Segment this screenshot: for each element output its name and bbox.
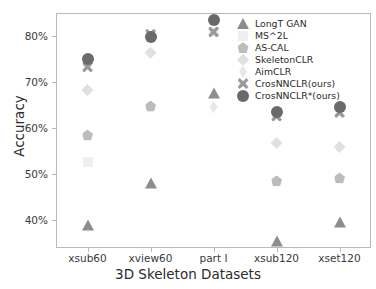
legend-marker-swatch xyxy=(231,42,255,53)
data-point xyxy=(334,216,346,227)
y-axis-tick-mark xyxy=(52,128,56,129)
x-marker xyxy=(238,78,249,89)
x-axis-tick-mark xyxy=(340,248,341,252)
triangle-marker xyxy=(237,18,249,29)
pentagon-marker xyxy=(238,42,249,53)
y-axis-tick-mark xyxy=(52,220,56,221)
square-marker xyxy=(238,31,248,41)
data-point xyxy=(145,31,157,43)
x-axis-tick-label: xset120 xyxy=(318,252,360,264)
y-axis-title: Accuracy xyxy=(11,66,27,186)
legend-item[interactable]: AS-CAL xyxy=(231,42,365,53)
data-point xyxy=(83,157,93,167)
y-axis-tick-label: 80% xyxy=(14,30,48,42)
x-axis-tick-label: part I xyxy=(200,252,228,264)
x-axis-tick-mark xyxy=(277,248,278,252)
scatter-chart-figure: 40%50%60%70%80% xsub60xview60part Ixsub1… xyxy=(0,0,376,289)
legend-marker-swatch xyxy=(231,78,255,89)
data-point xyxy=(208,14,220,26)
y-axis-tick-mark xyxy=(52,174,56,175)
x-axis-title: 3D Skeleton Datasets xyxy=(0,266,376,282)
data-point xyxy=(271,106,283,118)
legend-marker-swatch xyxy=(231,30,255,41)
legend-item-label: LongT GAN xyxy=(255,18,307,29)
x-axis-tick-mark xyxy=(214,248,215,252)
legend-item[interactable]: LongT GAN xyxy=(231,18,365,29)
legend-item-label: CrosNNCLR*(ours) xyxy=(255,90,340,101)
legend-item-label: CrosNNCLR(ours) xyxy=(255,78,335,89)
legend-marker-swatch xyxy=(231,54,255,65)
legend-item-label: AS-CAL xyxy=(255,42,289,53)
y-axis-tick-mark xyxy=(52,36,56,37)
data-point xyxy=(82,219,94,230)
legend-item[interactable]: SkeletonCLR xyxy=(231,54,365,65)
legend-item[interactable]: CrosNNCLR(ours) xyxy=(231,78,365,89)
x-axis-tick-label: xsub60 xyxy=(68,252,106,264)
legend-item[interactable]: AimCLR xyxy=(231,66,365,77)
diamond-marker xyxy=(237,54,249,66)
legend-item[interactable]: MS^2L xyxy=(231,30,365,41)
data-point xyxy=(82,53,94,65)
x-axis-tick-mark xyxy=(88,248,89,252)
thin-diamond-marker xyxy=(239,65,247,78)
circle-marker xyxy=(237,90,249,102)
legend-marker-swatch xyxy=(231,18,255,29)
data-point xyxy=(271,235,283,246)
y-axis-tick-label: 40% xyxy=(14,214,48,226)
y-axis-tick-mark xyxy=(52,82,56,83)
data-point xyxy=(208,87,220,98)
legend-item-label: SkeletonCLR xyxy=(255,54,313,65)
legend-item-label: MS^2L xyxy=(255,30,288,41)
legend-item-label: AimCLR xyxy=(255,66,291,77)
data-point xyxy=(145,178,157,189)
x-axis-tick-label: xsub120 xyxy=(254,252,299,264)
chart-legend: LongT GANMS^2LAS-CALSkeletonCLRAimCLRCro… xyxy=(228,16,368,105)
x-axis-tick-mark xyxy=(151,248,152,252)
legend-marker-swatch xyxy=(231,66,255,77)
legend-marker-swatch xyxy=(231,90,255,101)
x-axis-tick-label: xview60 xyxy=(129,252,173,264)
legend-item[interactable]: CrosNNCLR*(ours) xyxy=(231,90,365,101)
